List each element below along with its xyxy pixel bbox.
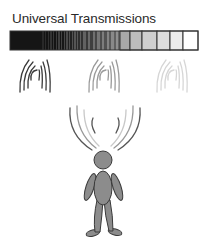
bar-box (142, 31, 157, 50)
bar-box (120, 31, 130, 50)
wave-group-medium (89, 60, 119, 92)
emanation-arcs (70, 106, 140, 150)
head (94, 151, 112, 169)
emanation-arc (84, 110, 99, 146)
torso (94, 171, 112, 205)
emanation-arc (92, 118, 95, 133)
bar-box (183, 31, 198, 50)
bar-box (170, 31, 183, 50)
bar-solid-segment (10, 31, 42, 50)
wave-group-light (157, 60, 187, 92)
intensity-gradient-bar (10, 31, 198, 50)
bar-box (130, 31, 142, 50)
wave-groups (20, 60, 187, 92)
transmission-diagram (0, 0, 211, 244)
human-figure (82, 151, 125, 238)
wave-group-dark (20, 60, 50, 92)
bar-box (157, 31, 170, 50)
emanation-arc (116, 118, 119, 133)
